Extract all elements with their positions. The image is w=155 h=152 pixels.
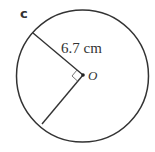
circle-diagram: c 6.7 cm O — [0, 0, 155, 152]
right-angle-marker — [72, 70, 78, 81]
radius-label: 6.7 cm — [61, 40, 102, 56]
center-point — [81, 73, 85, 77]
part-label: c — [20, 6, 28, 21]
radius-lower — [42, 75, 83, 124]
center-label: O — [88, 68, 98, 83]
